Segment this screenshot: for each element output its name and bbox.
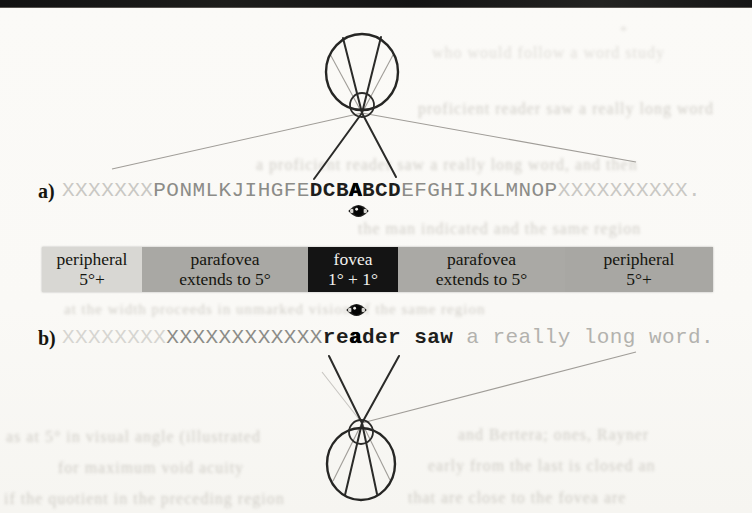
segment-range: extends to 5° (179, 270, 271, 290)
retinal-ray-gray-left (333, 423, 362, 481)
lens-circle (350, 93, 374, 117)
line-a-fixation-letter: A (349, 179, 362, 202)
bleedthrough-text: a proficient reader saw a really long wo… (256, 156, 638, 174)
line-a-parafovea-left: PONMLKJIHGFE (153, 179, 310, 202)
bar-segment-parafovea-left: parafovea extends to 5° (142, 247, 308, 292)
bar-segment-peripheral-right: peripheral 5°+ (565, 247, 713, 292)
bleedthrough-text: as at 5° in visual angle (illustrated (6, 428, 261, 446)
scanned-figure-page: * who would follow a word study proficie… (0, 0, 752, 513)
lens-circle (349, 420, 373, 444)
segment-range: 5°+ (626, 270, 652, 290)
retinal-ray-bold-right (362, 423, 377, 494)
segment-label: peripheral (604, 250, 675, 270)
retinal-ray-bold-right (362, 37, 381, 113)
peripheral-ray-left (322, 372, 362, 423)
line-a-fovea-post: BCD (362, 179, 401, 202)
segment-label: peripheral (57, 250, 128, 270)
line-b-peripheral-left: XXXXXXXX (62, 326, 166, 349)
retinal-ray-gray-left (330, 54, 362, 113)
eye-fixation-icon-b (345, 303, 368, 317)
panel-a-label: a) (38, 180, 55, 203)
scan-edge-strip (0, 0, 752, 8)
panel-b-label: b) (38, 327, 56, 350)
segment-range: extends to 5° (436, 270, 528, 290)
retinal-ray-gray-right (362, 55, 393, 113)
text-line-a: XXXXXXXPONMLKJIHGFEDCBABCDEFGHIJKLMNOPXX… (62, 180, 701, 201)
line-a-peripheral-left: XXXXXXX (62, 179, 153, 202)
segment-label: parafovea (447, 250, 516, 270)
foveal-ray-left (329, 356, 362, 423)
eyeball-outline (326, 34, 398, 110)
bleedthrough-text: who would follow a word study (432, 44, 665, 62)
foveal-ray-right (362, 356, 399, 423)
lower-eye-diagram (322, 352, 636, 500)
foveal-ray-left (314, 113, 362, 179)
line-a-fovea-pre: DCB (310, 179, 349, 202)
retinal-ray-bold-left (345, 423, 362, 495)
eyeball-outline (327, 428, 395, 500)
segment-range: 1° + 1° (328, 270, 378, 290)
line-a-parafovea-right: EFGHIJKLMNOP (401, 179, 558, 202)
eye-fixation-icon-a (347, 204, 370, 218)
segment-range: 5°+ (79, 270, 105, 290)
bleedthrough-text: * (620, 24, 628, 40)
bar-segment-fovea: fovea 1° + 1° (308, 247, 398, 292)
bleedthrough-text: early from the last is closed an (428, 457, 656, 475)
bleedthrough-text: and Bertera; ones, Rayner (458, 426, 649, 444)
segment-label: fovea (334, 250, 373, 270)
peripheral-ray-left (112, 113, 362, 169)
retinal-ray-bold-left (343, 38, 362, 113)
retinal-ray-gray-right (362, 423, 390, 480)
foveal-ray-right (362, 113, 396, 177)
peripheral-ray-right (362, 352, 636, 423)
bleedthrough-text: at the width proceeds in unmarked vision… (64, 301, 485, 318)
line-b-fovea-pre: re (323, 326, 349, 349)
line-b-fovea-post: der saw (362, 326, 453, 349)
bar-segment-parafovea-right: parafovea extends to 5° (398, 247, 565, 292)
bleedthrough-text: if the quotient in the preceding region (4, 490, 285, 508)
line-a-peripheral-right: XXXXXXXXXX. (558, 179, 701, 202)
visual-acuity-bar: peripheral 5°+ parafovea extends to 5° f… (42, 247, 713, 292)
bleedthrough-text: the man indicated and the same region (358, 220, 641, 238)
upper-eye-diagram (112, 34, 636, 179)
bleedthrough-text: that are close to the fovea are (408, 489, 626, 507)
bleedthrough-text: for maximum void acuity (58, 459, 244, 477)
bleedthrough-text: proficient reader saw a really long word (418, 100, 714, 118)
bar-segment-peripheral-left: peripheral 5°+ (42, 247, 142, 292)
peripheral-ray-right (362, 113, 636, 162)
line-b-peripheral-right: a really long word. (453, 326, 714, 349)
segment-label: parafovea (191, 250, 260, 270)
text-line-b: XXXXXXXXXXXXXXXXXXXXreader saw a really … (62, 327, 714, 348)
line-b-fixation-letter: a (349, 326, 362, 349)
line-b-parafovea-left: XXXXXXXXXXXX (166, 326, 323, 349)
